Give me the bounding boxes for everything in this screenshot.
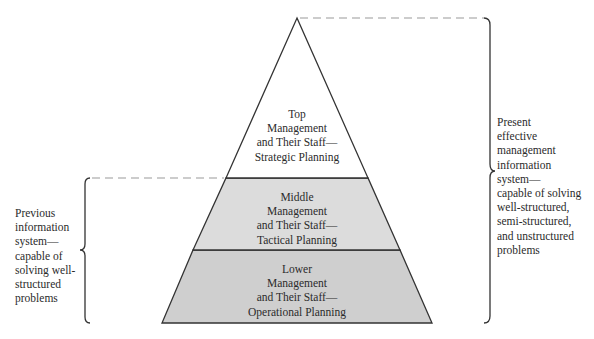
annotation-line: Present	[497, 115, 594, 129]
layer-line: and Their Staff—	[222, 218, 372, 232]
annotation-line: information	[497, 158, 594, 172]
layer-line: Strategic Planning	[222, 150, 372, 164]
annotation-line: solving well-	[15, 263, 85, 277]
pyramid-layer-middle-label: Middle Management and Their Staff— Tacti…	[222, 190, 372, 247]
pyramid-layer-top-label: Top Management and Their Staff— Strategi…	[222, 107, 372, 164]
annotation-line: Previous	[15, 206, 85, 220]
layer-line: Middle	[222, 190, 372, 204]
annotation-line: effective	[497, 129, 594, 143]
annotation-line: system—	[15, 234, 85, 248]
layer-line: Top	[222, 107, 372, 121]
annotation-line: problems	[497, 243, 594, 257]
right-curly-bracket	[484, 18, 495, 323]
layer-line: Management	[222, 204, 372, 218]
annotation-line: capable of	[15, 249, 85, 263]
pyramid-layer-lower-label: Lower Management and Their Staff— Operat…	[222, 262, 372, 319]
annotation-line: structured	[15, 277, 85, 291]
annotation-line: semi-structured,	[497, 214, 594, 228]
previous-system-annotation: Previous information system— capable of …	[15, 206, 85, 305]
layer-line: and Their Staff—	[222, 290, 372, 304]
annotation-line: management	[497, 143, 594, 157]
annotation-line: system—	[497, 172, 594, 186]
annotation-line: and unstructured	[497, 229, 594, 243]
present-system-annotation: Present effective management information…	[497, 115, 594, 257]
annotation-line: capable of solving	[497, 186, 594, 200]
layer-line: Lower	[222, 262, 372, 276]
layer-line: Operational Planning	[222, 305, 372, 319]
annotation-line: well-structured,	[497, 200, 594, 214]
layer-line: Management	[222, 121, 372, 135]
annotation-line: information	[15, 220, 85, 234]
layer-line: Tactical Planning	[222, 233, 372, 247]
annotation-line: problems	[15, 291, 85, 305]
layer-line: and Their Staff—	[222, 135, 372, 149]
layer-line: Management	[222, 276, 372, 290]
